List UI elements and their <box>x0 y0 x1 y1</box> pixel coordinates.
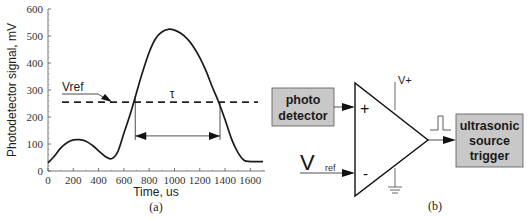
x-tick-label: 1600 <box>239 174 262 186</box>
y-tick-label: 0 <box>38 165 44 177</box>
y-tick-label: 500 <box>27 30 44 42</box>
plus-input-arrow-icon <box>342 103 355 111</box>
x-tick-label: 600 <box>116 174 133 186</box>
caption-a: (a) <box>149 200 162 214</box>
plus-sign: + <box>360 100 369 117</box>
x-tick-label: 400 <box>90 174 107 186</box>
output-arrow-icon <box>443 136 456 144</box>
y-tick-label: 100 <box>27 138 44 150</box>
supply-label: V+ <box>398 74 412 86</box>
comparator-diagram: photo detector V ref + - V+ ultrasonic s… <box>272 74 523 213</box>
signal-curve <box>48 29 263 163</box>
photo-detector-label-1: photo <box>286 93 321 107</box>
vref-symbol: V <box>300 150 315 175</box>
photo-detector-label-2: detector <box>278 109 327 123</box>
y-axis-title: Photodetector signal, mV <box>5 23 19 157</box>
y-ticks: 0100200300400500600 <box>27 3 52 177</box>
y-tick-label: 400 <box>27 57 44 69</box>
minus-input-arrow-icon <box>342 169 355 177</box>
x-tick-label: 1400 <box>214 174 237 186</box>
y-tick-label: 300 <box>27 84 44 96</box>
vref-arrow-head-icon <box>101 94 112 102</box>
signal-plot: 0100200300400500600 02004006008001000120… <box>5 3 265 214</box>
vref-subscript: ref <box>325 163 336 173</box>
x-tick-label: 200 <box>65 174 82 186</box>
output-label-1: ultrasonic <box>460 119 520 133</box>
x-tick-label: 0 <box>45 174 51 186</box>
y-tick-label: 600 <box>27 3 44 15</box>
caption-b: (b) <box>428 199 442 213</box>
x-tick-label: 1200 <box>189 174 212 186</box>
tau-arrow-right-icon <box>209 132 220 140</box>
vref-label: Vref <box>62 80 84 94</box>
figure: 0100200300400500600 02004006008001000120… <box>0 0 531 220</box>
x-axis-title: Time, us <box>133 185 179 199</box>
tau-arrow-left-icon <box>135 132 146 140</box>
ground-icon <box>388 187 402 193</box>
output-label-3: trigger <box>470 149 510 163</box>
y-tick-label: 200 <box>27 111 44 123</box>
tau-label: τ <box>170 87 175 101</box>
minus-sign: - <box>363 165 368 182</box>
pulse-icon <box>430 116 451 130</box>
output-label-2: source <box>469 134 510 148</box>
